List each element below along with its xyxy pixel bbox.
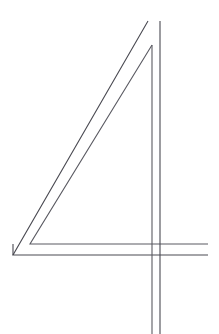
numeral-four-glyph <box>0 0 219 334</box>
drawing-canvas <box>0 0 219 334</box>
canvas-background <box>0 0 219 334</box>
